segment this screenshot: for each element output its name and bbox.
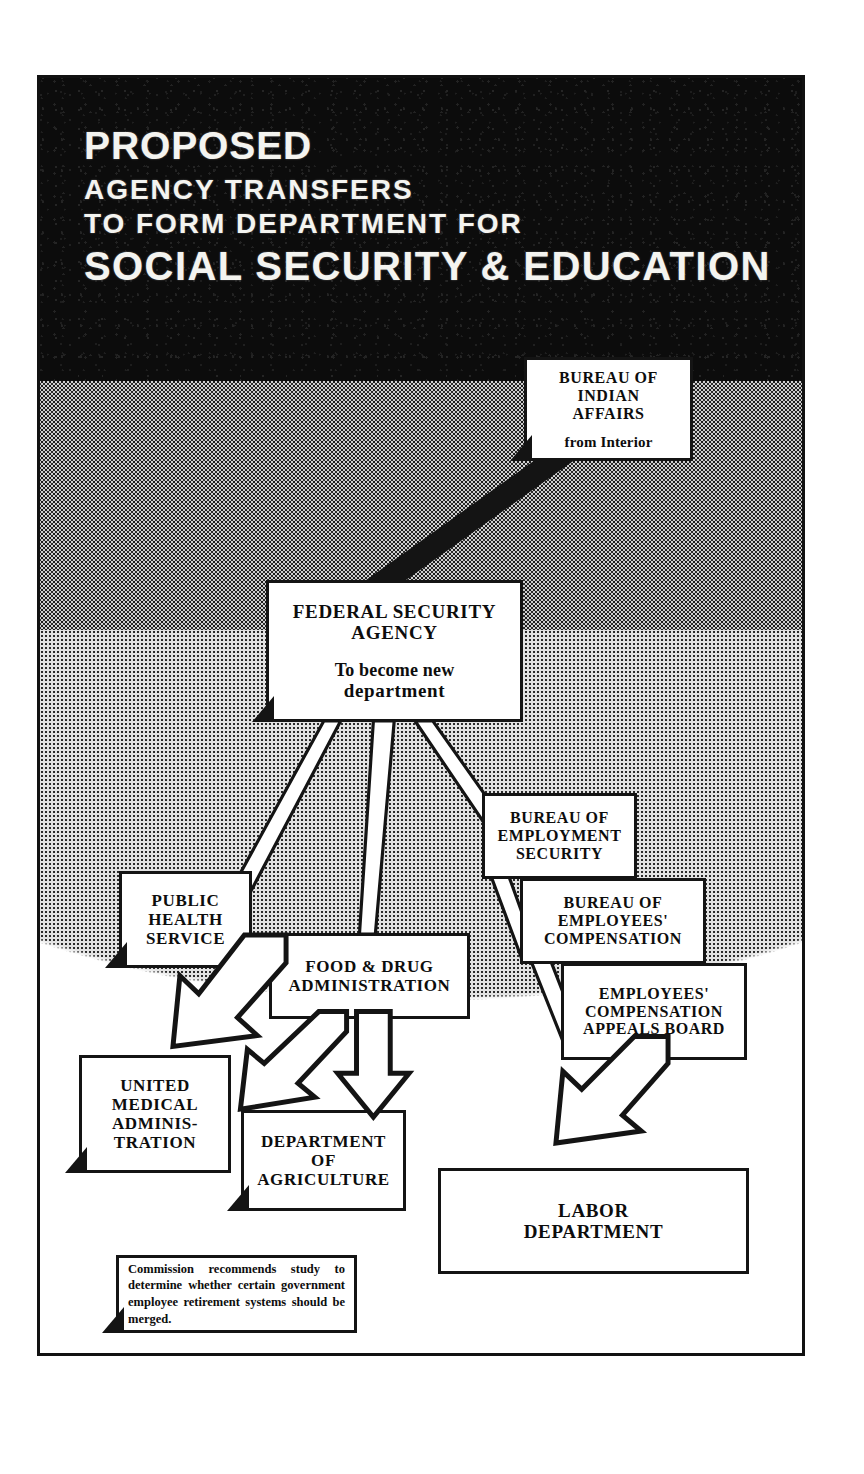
fsa-line-2: AGENCY: [351, 622, 437, 643]
fda-line-1: FOOD & DRUG: [305, 957, 433, 976]
node-federal-security-agency[interactable]: FEDERAL SECURITY AGENCY To become new de…: [266, 580, 523, 722]
doa-line-1: DEPARTMENT: [261, 1132, 386, 1151]
title-panel: PROPOSED AGENCY TRANSFERS TO FORM DEPART…: [40, 78, 802, 381]
footnote-callout[interactable]: Commission recommends study to determine…: [116, 1255, 357, 1333]
node-bureau-employment-security[interactable]: BUREAU OF EMPLOYMENT SECURITY: [482, 793, 637, 879]
bes-line-1: BUREAU OF: [510, 809, 609, 827]
link-fsa-to-phs: [236, 721, 340, 892]
bes-line-3: SECURITY: [516, 845, 603, 863]
uma-line-3: ADMINIS-: [112, 1114, 198, 1133]
labor-line-2: DEPARTMENT: [524, 1221, 664, 1242]
fda-line-2: ADMINISTRATION: [289, 976, 451, 995]
bes-line-2: EMPLOYMENT: [498, 827, 622, 845]
uma-line-2: MEDICAL: [112, 1095, 198, 1114]
node-united-medical-administration[interactable]: UNITED MEDICAL ADMINIS- TRATION: [79, 1055, 231, 1173]
fsa-subtitle-1: To become new: [335, 660, 455, 680]
node-employees-compensation-appeals-board[interactable]: EMPLOYEES' COMPENSATION APPEALS BOARD: [561, 963, 747, 1060]
ecab-line-2: COMPENSATION: [585, 1003, 723, 1021]
node-public-health-service[interactable]: PUBLIC HEALTH SERVICE: [119, 871, 252, 968]
fsa-line-1: FEDERAL SECURITY: [293, 601, 496, 622]
uma-line-1: UNITED: [120, 1076, 190, 1095]
labor-line-1: LABOR: [558, 1200, 629, 1221]
uma-line-4: TRATION: [114, 1133, 196, 1152]
bec-line-1: BUREAU OF: [564, 894, 663, 912]
node-bureau-indian-affairs[interactable]: BUREAU OF INDIAN AFFAIRS from Interior: [524, 357, 693, 461]
title-line-3: TO FORM DEPARTMENT FOR: [84, 208, 771, 239]
node-bureau-employees-compensation[interactable]: BUREAU OF EMPLOYEES' COMPENSATION: [520, 878, 706, 964]
ecab-line-1: EMPLOYEES': [599, 985, 710, 1003]
ecab-line-3: APPEALS BOARD: [583, 1020, 725, 1038]
arrow-fda-to-doa: [338, 1012, 409, 1118]
title-line-4: SOCIAL SECURITY & EDUCATION: [84, 244, 771, 289]
title-line-2: AGENCY TRANSFERS: [84, 174, 771, 205]
node-department-of-agriculture[interactable]: DEPARTMENT OF AGRICULTURE: [241, 1110, 406, 1211]
title-line-1: PROPOSED: [84, 124, 771, 168]
node-labor-department[interactable]: LABOR DEPARTMENT: [438, 1168, 749, 1274]
bec-line-2: EMPLOYEES': [558, 912, 669, 930]
fsa-subtitle-2: department: [344, 680, 446, 701]
node-food-and-drug-administration[interactable]: FOOD & DRUG ADMINISTRATION: [269, 933, 470, 1019]
page-title: PROPOSED AGENCY TRANSFERS TO FORM DEPART…: [84, 124, 771, 289]
bia-line-2: INDIAN: [577, 387, 639, 405]
bec-line-3: COMPENSATION: [544, 930, 682, 948]
bia-subtitle: from Interior: [565, 434, 653, 451]
phs-line-1: PUBLIC: [152, 891, 220, 910]
doa-line-2: OF: [311, 1151, 336, 1170]
arrow-fda-to-uma: [240, 1012, 346, 1110]
footnote-text: Commission recommends study to determine…: [128, 1261, 345, 1328]
phs-line-3: SERVICE: [146, 929, 225, 948]
poster-canvas: PROPOSED AGENCY TRANSFERS TO FORM DEPART…: [0, 0, 864, 1474]
bia-line-3: AFFAIRS: [572, 405, 644, 423]
doa-line-3: AGRICULTURE: [257, 1170, 390, 1189]
phs-line-2: HEALTH: [148, 910, 223, 929]
diagram-frame: PROPOSED AGENCY TRANSFERS TO FORM DEPART…: [37, 75, 805, 1356]
bia-line-1: BUREAU OF: [559, 369, 658, 387]
link-fsa-to-fda: [359, 721, 394, 934]
